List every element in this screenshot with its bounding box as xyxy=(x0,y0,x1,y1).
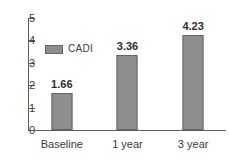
bar xyxy=(117,55,138,130)
x-category-label: Baseline xyxy=(29,138,95,150)
x-category-label: 3 year xyxy=(160,138,226,150)
legend-swatch-cadi xyxy=(45,45,63,54)
bar-value-label: 4.23 xyxy=(182,21,203,32)
bar xyxy=(51,93,72,130)
bar-group: 1.66 xyxy=(29,18,95,130)
x-category-label: 1 year xyxy=(95,138,161,150)
bar-group: 4.23 xyxy=(160,18,226,130)
bar xyxy=(183,35,204,130)
bar-value-label: 1.66 xyxy=(51,79,72,90)
bar-group: 3.36 xyxy=(95,18,161,130)
plot-area: 1.663.364.23 xyxy=(29,18,226,130)
bar-value-label: 3.36 xyxy=(117,41,138,52)
bar-chart: 543210 1.663.364.23 Baseline1 year3 year… xyxy=(0,0,229,160)
chart-legend: CADI xyxy=(45,44,93,54)
legend-label-cadi: CADI xyxy=(68,44,93,54)
x-axis-line xyxy=(28,130,226,131)
